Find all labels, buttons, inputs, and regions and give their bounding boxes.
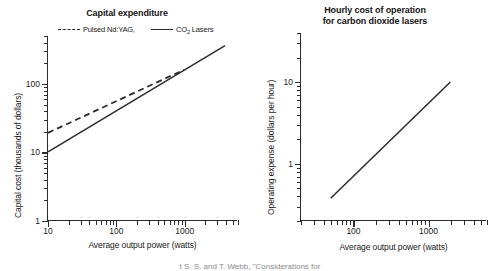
legend: Pulsed Nd:YAG, CO2 Lasers (58, 25, 213, 34)
chart-title-left: Capital expenditure (2, 8, 252, 19)
x-tick (205, 220, 206, 225)
x-axis-title-left: Average output power (watts) (48, 240, 237, 250)
y-tick (44, 163, 49, 164)
x-tick (89, 220, 90, 225)
y-tick (297, 86, 302, 87)
x-tick (170, 220, 171, 225)
y-tick (297, 177, 302, 178)
x-tick-label: 1000 (419, 226, 438, 236)
y-tick (297, 182, 302, 183)
y-tick (42, 152, 49, 153)
plot-area-left: Average output power (watts) 10100100011… (47, 36, 237, 221)
x-tick (314, 220, 315, 225)
y-tick (44, 180, 49, 181)
legend-swatch-dashed-icon (58, 29, 80, 30)
y-tick (44, 111, 49, 112)
x-tick (474, 220, 475, 225)
series-line (48, 46, 225, 152)
series-line (48, 70, 184, 133)
y-tick (297, 90, 302, 91)
x-tick (337, 220, 338, 225)
x-tick (238, 220, 239, 225)
y-tick (297, 221, 302, 222)
x-tick (69, 220, 70, 225)
x-tick-label: 1000 (175, 226, 194, 236)
x-tick (301, 220, 302, 225)
y-tick (297, 33, 302, 34)
x-tick (350, 220, 351, 225)
x-tick (110, 220, 111, 225)
x-tick (481, 220, 482, 225)
x-tick (324, 220, 325, 225)
series-lines-left (48, 36, 237, 220)
x-axis-title-right: Average output power (watts) (301, 242, 486, 252)
legend-label-nd-yag: Pulsed Nd:YAG, (83, 25, 135, 34)
y-tick (44, 159, 49, 160)
x-tick (174, 220, 175, 225)
y-tick-label: 1 (288, 159, 293, 169)
x-tick (412, 220, 413, 225)
x-tick (451, 220, 452, 225)
x-tick (389, 220, 390, 225)
y-tick (44, 168, 49, 169)
x-tick (487, 220, 488, 225)
y-tick-label: 1 (35, 216, 40, 226)
y-tick (297, 188, 302, 189)
x-tick (406, 220, 407, 225)
y-tick (44, 87, 49, 88)
y-tick (297, 100, 302, 101)
chart-panel-capital-expenditure: Capital expenditure Pulsed Nd:YAG, CO2 L… (0, 0, 250, 269)
y-tick (297, 95, 302, 96)
x-tick (106, 220, 107, 225)
y-tick (44, 132, 49, 133)
x-tick (346, 220, 347, 225)
y-tick (297, 139, 302, 140)
y-tick (44, 188, 49, 189)
x-tick (399, 220, 400, 225)
legend-item-nd-yag: Pulsed Nd:YAG, (58, 25, 135, 34)
x-tick (164, 220, 165, 225)
series-lines-right (301, 33, 486, 220)
x-tick (331, 220, 332, 225)
y-tick (297, 43, 302, 44)
y-tick (44, 95, 49, 96)
chart-title-right-line2: for carbon dioxide lasers (323, 16, 428, 26)
y-tick (297, 125, 302, 126)
x-tick (342, 220, 343, 225)
y-tick (297, 172, 302, 173)
x-tick (96, 220, 97, 225)
chart-title-right-line1: Hourly cost of operation (324, 5, 426, 15)
legend-swatch-solid-icon (151, 29, 173, 30)
x-tick (137, 220, 138, 225)
y-tick (44, 120, 49, 121)
y-tick (44, 43, 49, 44)
figure-caption-partial: t S. S. and T. Webb, "Considerations for (0, 262, 500, 271)
x-tick-label: 100 (346, 226, 360, 236)
x-tick (233, 220, 234, 225)
y-tick-label: 10 (31, 147, 40, 157)
y-tick (44, 105, 49, 106)
y-axis-title-right: Operating expense (dollars per hour) (266, 80, 276, 215)
x-tick (421, 220, 422, 225)
y-tick (44, 36, 49, 37)
y-tick (44, 91, 49, 92)
x-tick-label: 10 (43, 226, 52, 236)
x-tick (226, 220, 227, 225)
x-tick (178, 220, 179, 225)
x-tick (149, 220, 150, 225)
y-tick (297, 107, 302, 108)
y-tick (297, 168, 302, 169)
y-tick (295, 82, 302, 83)
y-tick (44, 200, 49, 201)
x-tick (417, 220, 418, 225)
x-tick (113, 220, 114, 225)
x-tick (81, 220, 82, 225)
x-tick (182, 220, 183, 225)
y-tick (44, 156, 49, 157)
x-tick (217, 220, 218, 225)
y-tick (42, 84, 49, 85)
y-tick (44, 63, 49, 64)
plot-area-right: Average output power (watts) 1001000110 (300, 33, 486, 221)
y-axis-title-left: Capital cost (thousands of dollars) (13, 93, 23, 218)
x-tick (464, 220, 465, 225)
